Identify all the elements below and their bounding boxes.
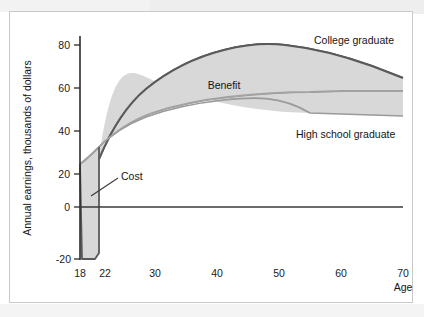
x-tick-label-60: 60 <box>335 267 347 279</box>
x-tick-label-50: 50 <box>273 267 285 279</box>
y-axis-title: Annual earnings, thousands of dollars <box>21 60 33 236</box>
y-tick-label-80: 80 <box>58 39 70 51</box>
y-tick-label-20: 20 <box>58 168 70 180</box>
x-tick-label-40: 40 <box>211 267 223 279</box>
y-tick-label-40: 40 <box>58 125 70 137</box>
cost-region-fill <box>80 147 99 259</box>
y-tick-label-60: 60 <box>58 82 70 94</box>
y-tick-label-0: 0 <box>64 201 70 213</box>
x-tick-label-70: 70 <box>397 267 409 279</box>
x-tick-label-18: 18 <box>74 267 86 279</box>
high-school-graduate-label: High school graduate <box>296 128 395 140</box>
earnings-chart: 80 60 40 20 0 -20 18 22 30 40 50 60 70 A… <box>0 0 424 317</box>
x-tick-label-22: 22 <box>99 267 111 279</box>
cost-label: Cost <box>121 170 143 182</box>
benefit-label: Benefit <box>208 79 241 91</box>
y-axis-ticks <box>74 45 80 259</box>
x-tick-label-30: 30 <box>149 267 161 279</box>
x-axis-title: Age <box>394 281 413 293</box>
y-tick-label-minus20: -20 <box>56 253 71 265</box>
college-graduate-label: College graduate <box>314 34 394 46</box>
